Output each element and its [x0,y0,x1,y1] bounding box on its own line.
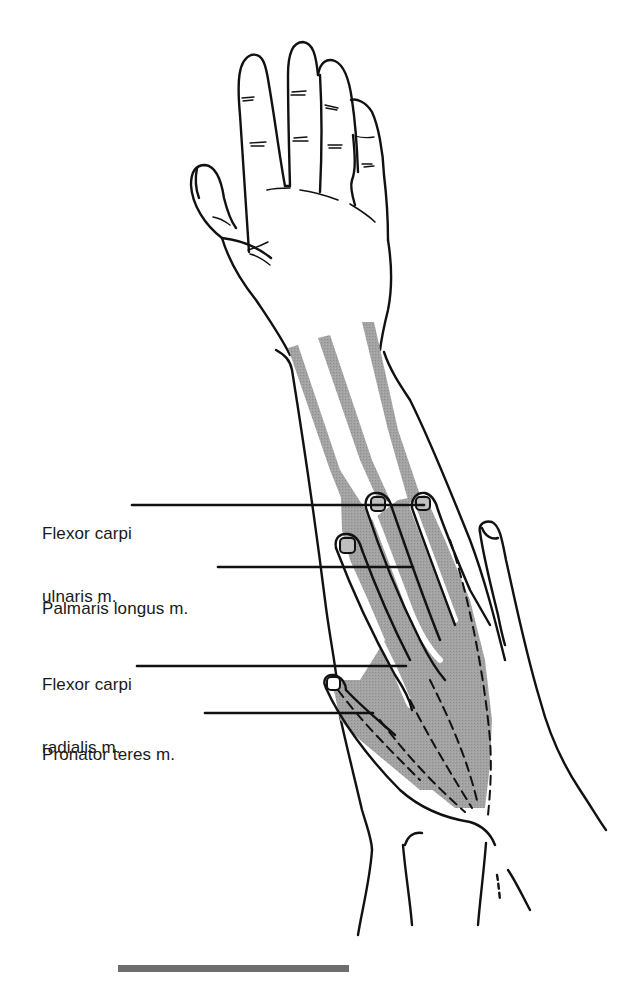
label-text: Pronator teres m. [42,744,175,765]
label-text: Flexor carpi [42,523,132,544]
label-text: Palmaris longus m. [42,598,188,619]
bottom-bar [118,965,349,972]
label-pronator-teres: Pronator teres m. [42,702,175,807]
anatomy-figure: Flexor carpi ulnaris m. Palmaris longus … [0,0,634,987]
label-text: Flexor carpi [42,674,132,695]
hand-outline [191,42,391,355]
